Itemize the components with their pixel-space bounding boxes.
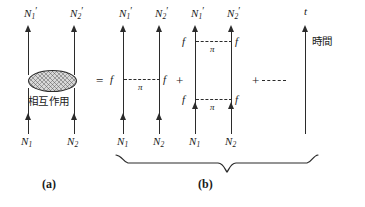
vertex-coupling-lower-left-b2: f (182, 94, 185, 105)
line-time-axis (305, 31, 306, 134)
label-outgoing-n1-prime-a: N1′ (24, 6, 37, 21)
vertex-coupling-lower-right-b2: f (235, 94, 238, 105)
time-axis-symbol: t (304, 6, 307, 17)
pion-label-lower-b2: π (210, 103, 215, 112)
prime-mark: ′ (202, 5, 204, 16)
pion-exchange-line-upper-b2 (196, 41, 232, 42)
vertex-coupling-left-b1: f (110, 74, 113, 85)
prime-mark: ′ (35, 5, 37, 16)
equals-operator: = (96, 74, 103, 87)
nucleon-subscript: 1 (124, 140, 128, 149)
plus-operator-1: + (176, 74, 183, 87)
brace-under-panel-b (0, 150, 365, 180)
line-incoming-1-a (28, 88, 29, 134)
nucleon-subscript: 1 (28, 140, 32, 149)
feynman-diagram-figure: N1′ N2′ 相互作用 N1 N2 (a) = N1′ N2′ f f π N… (0, 0, 365, 207)
label-incoming-n1-b2: N1 (189, 136, 200, 149)
prime-mark: ′ (238, 5, 240, 16)
interaction-blob-label: 相互作用 (28, 96, 69, 107)
line-nucleon-2-b2 (231, 31, 232, 134)
continuation-dots (262, 80, 286, 81)
label-incoming-n1-a: N1 (21, 136, 32, 149)
arrowhead-incoming-2-a (71, 113, 77, 120)
label-incoming-n2-b1: N2 (153, 136, 164, 149)
prime-mark: ′ (166, 5, 168, 16)
pion-exchange-line-lower-b2 (196, 99, 232, 100)
line-incoming-2-a (74, 88, 75, 134)
prime-mark: ′ (81, 5, 83, 16)
vertex-coupling-upper-right-b2: f (235, 36, 238, 47)
nucleon-subscript: 2 (160, 140, 164, 149)
nucleon-subscript: 2 (74, 140, 78, 149)
line-nucleon-1-b2 (195, 31, 196, 134)
plus-operator-2: + (252, 74, 259, 87)
label-outgoing-n2-prime-a: N2′ (70, 6, 83, 21)
interaction-blob (28, 70, 77, 92)
label-incoming-n2-b2: N2 (225, 136, 236, 149)
pion-exchange-line-b1 (124, 79, 160, 80)
vertex-coupling-upper-left-b2: f (182, 36, 185, 47)
line-outgoing-1-a (28, 31, 29, 75)
nucleon-subscript: 1 (196, 140, 200, 149)
label-outgoing-n2-prime-b1: N2′ (155, 6, 168, 21)
label-outgoing-n1-prime-b2: N1′ (191, 6, 204, 21)
label-incoming-n2-a: N2 (67, 136, 78, 149)
vertex-coupling-right-b1: f (163, 74, 166, 85)
pion-label-upper-b2: π (210, 45, 215, 54)
prime-mark: ′ (130, 5, 132, 16)
label-incoming-n1-b1: N1 (117, 136, 128, 149)
arrowhead-incoming-2-b1 (156, 113, 162, 120)
line-outgoing-2-a (74, 31, 75, 75)
arrowhead-incoming-1-b2 (192, 102, 198, 109)
nucleon-subscript: 2 (232, 140, 236, 149)
arrowhead-incoming-2-b2 (228, 102, 234, 109)
label-outgoing-n2-prime-b2: N2′ (227, 6, 240, 21)
panel-label-b: (b) (198, 178, 213, 190)
time-axis-label: 時間 (312, 36, 333, 47)
pion-label-b1: π (138, 83, 143, 92)
arrowhead-incoming-1-b1 (120, 113, 126, 120)
arrowhead-incoming-1-a (25, 113, 31, 120)
label-outgoing-n1-prime-b1: N1′ (119, 6, 132, 21)
